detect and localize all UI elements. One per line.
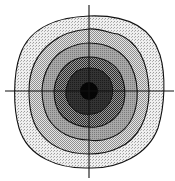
contour-ring-diagram [0,0,175,181]
crosshair-axes [5,5,174,178]
